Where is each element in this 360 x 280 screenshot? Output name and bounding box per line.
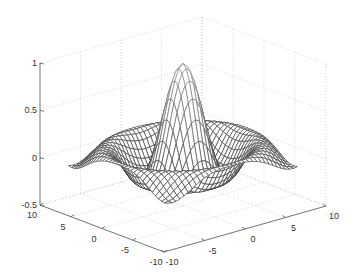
z-tick-label: -0.5: [21, 200, 37, 210]
right-axis-tick-label: 10: [329, 211, 339, 221]
z-tick-label: 0.5: [24, 105, 37, 115]
right-axis-tick-label: -5: [208, 246, 216, 256]
left-axis-tick-label: 10: [27, 210, 37, 220]
left-axis-tick-label: -5: [121, 245, 129, 255]
z-tick-label: 0: [32, 153, 37, 163]
mesh-surface: [69, 64, 298, 204]
right-axis-tick-label: 5: [291, 223, 296, 233]
z-tick-label: 1: [32, 58, 37, 68]
left-axis-tick-label: -10: [149, 257, 162, 267]
surface-plot: -0.500.511050-5-10-10-50510: [0, 0, 360, 280]
left-axis-tick-label: 0: [91, 234, 96, 244]
left-axis-tick-label: 5: [60, 222, 65, 232]
right-axis-tick-label: -10: [165, 257, 178, 267]
right-axis-tick-label: 0: [250, 234, 255, 244]
